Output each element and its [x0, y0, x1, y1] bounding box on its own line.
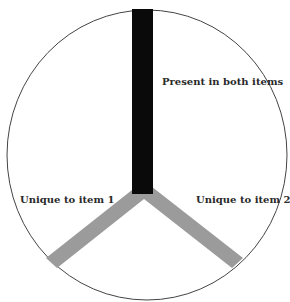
- label-shared: Present in both items: [162, 76, 283, 87]
- diagram-canvas: [0, 0, 290, 302]
- label-unique-item-1: Unique to item 1: [20, 194, 114, 205]
- label-unique-item-2: Unique to item 2: [196, 194, 290, 205]
- shared-bar: [132, 9, 153, 194]
